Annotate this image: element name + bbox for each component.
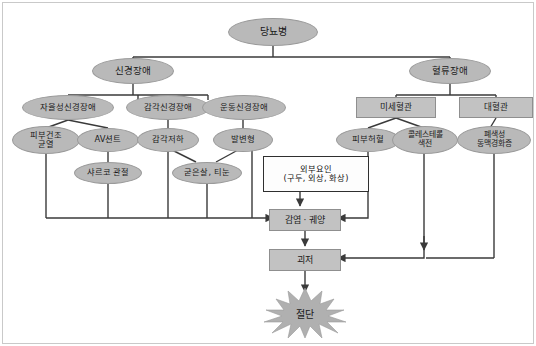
node-callus-corn[interactable]: 굳은살, 티눈 [172,162,242,184]
node-skin-ischemia-label: 피부허혈 [352,135,384,145]
node-neuropathy-label: 신경장애 [115,66,151,77]
node-gangrene[interactable]: 괴저 [269,249,341,271]
node-microvascular-label: 미세혈관 [380,103,412,113]
node-av-shunt[interactable]: AV션트 [77,128,139,152]
node-infection-ulcer[interactable]: 감염 · 궤양 [269,209,341,231]
node-diabetes-label: 당뇨병 [260,26,287,38]
node-diabetes[interactable]: 당뇨병 [228,18,318,46]
node-dry-skin-line2: 균열 [38,140,54,149]
node-charcot-joint[interactable]: 샤르코 관절 [74,162,142,184]
diagram-canvas: 당뇨병 신경장애 혈류장애 자율성신경장애 감각신경장애 운동신경장애 미세혈관… [0,0,536,346]
node-external-factors-line2: (구두, 외상, 화상) [284,174,349,183]
node-autonomic-neuropathy-label: 자율성신경장애 [40,103,96,113]
node-gangrene-label: 괴저 [297,255,313,265]
node-macrovascular-label: 대혈관 [484,103,508,113]
node-foot-deformity[interactable]: 발변형 [213,128,273,152]
node-vascular-label: 혈류장애 [432,66,468,77]
node-vascular[interactable]: 혈류장애 [409,58,491,84]
node-cholesterol-line2: 색전 [418,140,432,149]
node-hypoesthesia[interactable]: 감각저하 [137,128,199,152]
node-amputation[interactable]: 절단 [250,288,360,338]
node-cholesterol-embolism[interactable]: 콜레스테롤 색전 [392,126,458,154]
node-charcot-joint-label: 샤르코 관절 [87,168,130,177]
node-atherosclerosis-obliterans[interactable]: 폐색성 동맥경화증 [457,126,531,154]
node-microvascular[interactable]: 미세혈관 [356,97,436,118]
node-sensory-neuropathy[interactable]: 감각신경장애 [126,95,210,120]
node-macrovascular[interactable]: 대혈관 [459,97,533,118]
node-neuropathy[interactable]: 신경장애 [92,58,174,84]
node-dry-skin-cracking[interactable]: 피부건조 균열 [12,126,80,154]
node-hypoesthesia-label: 감각저하 [152,135,184,145]
node-av-shunt-label: AV션트 [95,135,122,145]
node-callus-corn-label: 굳은살, 티눈 [184,168,229,177]
node-amputation-label: 절단 [296,306,314,321]
node-skin-ischemia[interactable]: 피부허혈 [336,128,400,152]
node-external-factors[interactable]: 외부요인 (구두, 외상, 화상) [263,156,369,192]
node-foot-deformity-label: 발변형 [231,135,255,145]
node-motor-neuropathy[interactable]: 운동신경장애 [202,95,286,120]
node-sensory-neuropathy-label: 감각신경장애 [144,103,192,113]
node-motor-neuropathy-label: 운동신경장애 [220,103,268,113]
node-atherosclerosis-line2: 동맥경화증 [477,140,512,149]
node-infection-ulcer-label: 감염 · 궤양 [285,215,326,225]
node-autonomic-neuropathy[interactable]: 자율성신경장애 [22,95,114,120]
